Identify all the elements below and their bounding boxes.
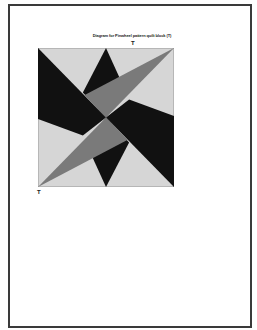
top-orientation-marker: T [131,40,135,46]
bottom-orientation-marker: T [37,189,41,195]
quilt-block-figure [38,48,174,187]
diagram-title: Diagram for Pinwheel pattern quilt block… [83,33,181,39]
pinwheel-block-diagram [38,48,174,187]
